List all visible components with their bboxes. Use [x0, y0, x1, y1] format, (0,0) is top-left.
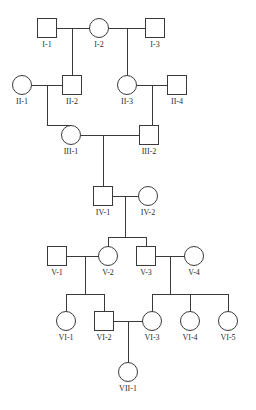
person-symbol-ii-1[interactable] — [13, 76, 32, 95]
person-symbol-v-3[interactable] — [137, 247, 156, 266]
person-symbol-v-2[interactable] — [99, 247, 118, 266]
person-label-vi-2: VI-2 — [96, 333, 111, 342]
person-symbol-i-1[interactable] — [38, 19, 57, 38]
person-symbol-vi-2[interactable] — [95, 312, 114, 331]
person-symbol-vii-1[interactable] — [119, 363, 138, 382]
person-label-vii-1: VII-1 — [119, 384, 137, 393]
person-label-ii-3: II-3 — [121, 97, 133, 106]
person-symbol-v-4[interactable] — [185, 247, 204, 266]
person-label-ii-1: II-1 — [16, 97, 28, 106]
person-label-v-1: V-1 — [51, 268, 63, 277]
person-label-iv-1: IV-1 — [96, 208, 110, 217]
person-label-i-1: I-1 — [42, 40, 51, 49]
person-symbol-iii-2[interactable] — [140, 126, 159, 145]
person-symbol-vi-5[interactable] — [219, 312, 238, 331]
pedigree-graphics — [0, 0, 256, 410]
person-label-iv-2: IV-2 — [141, 208, 155, 217]
person-symbol-iv-2[interactable] — [139, 187, 158, 206]
person-symbol-vi-4[interactable] — [181, 312, 200, 331]
person-label-vi-3: VI-3 — [144, 333, 159, 342]
person-label-i-3: I-3 — [150, 40, 159, 49]
person-label-v-4: V-4 — [188, 268, 200, 277]
person-symbol-ii-4[interactable] — [168, 76, 187, 95]
person-label-ii-2: II-2 — [66, 97, 78, 106]
person-symbol-vi-1[interactable] — [57, 312, 76, 331]
person-label-iii-1: III-1 — [64, 147, 79, 156]
mating-line-group — [32, 28, 185, 321]
person-symbol-ii-3[interactable] — [118, 76, 137, 95]
person-symbol-iii-1[interactable] — [62, 126, 81, 145]
person-label-v-2: V-2 — [102, 268, 114, 277]
person-label-vi-4: VI-4 — [182, 333, 197, 342]
person-symbol-ii-2[interactable] — [63, 76, 82, 95]
person-symbol-iv-1[interactable] — [94, 187, 113, 206]
person-symbol-i-2[interactable] — [90, 19, 109, 38]
person-label-i-2: I-2 — [94, 40, 103, 49]
person-label-vi-1: VI-1 — [58, 333, 73, 342]
person-label-ii-4: II-4 — [171, 97, 183, 106]
person-label-vi-5: VI-5 — [220, 333, 235, 342]
person-symbol-v-1[interactable] — [48, 247, 67, 266]
pedigree-chart: I-1I-2I-3II-1II-2II-3II-4III-1III-2IV-1I… — [0, 0, 256, 410]
person-label-v-3: V-3 — [140, 268, 152, 277]
person-label-iii-2: III-2 — [142, 147, 157, 156]
person-symbol-i-3[interactable] — [146, 19, 165, 38]
person-symbol-vi-3[interactable] — [143, 312, 162, 331]
